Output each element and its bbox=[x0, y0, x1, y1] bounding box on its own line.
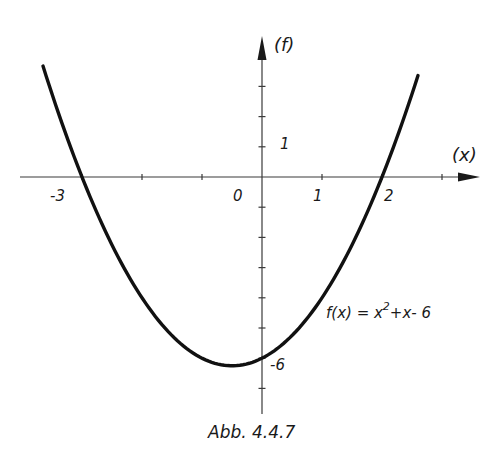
tick-label-x-neg3: -3 bbox=[50, 189, 65, 204]
function-label-exponent: 2 bbox=[383, 300, 390, 313]
y-axis-arrow-icon bbox=[258, 36, 267, 60]
x-axis-label: (x) bbox=[452, 146, 477, 164]
tick-label-origin: 0 bbox=[233, 189, 243, 204]
x-axis bbox=[20, 173, 480, 182]
tick-label-y-1: 1 bbox=[280, 137, 290, 152]
function-label-prefix: f(x) = x bbox=[326, 304, 383, 322]
y-axis-label: (f) bbox=[274, 36, 294, 54]
figure-caption: Abb. 4.4.7 bbox=[208, 424, 295, 441]
function-label: f(x) = x2+x- 6 bbox=[326, 306, 431, 321]
function-label-suffix: +x- 6 bbox=[390, 304, 431, 322]
function-plot bbox=[0, 0, 503, 472]
x-axis-arrow-icon bbox=[458, 173, 480, 182]
tick-label-y-neg6: -6 bbox=[270, 358, 285, 373]
tick-label-x-2: 2 bbox=[384, 189, 394, 204]
tick-label-x-1: 1 bbox=[313, 189, 323, 204]
